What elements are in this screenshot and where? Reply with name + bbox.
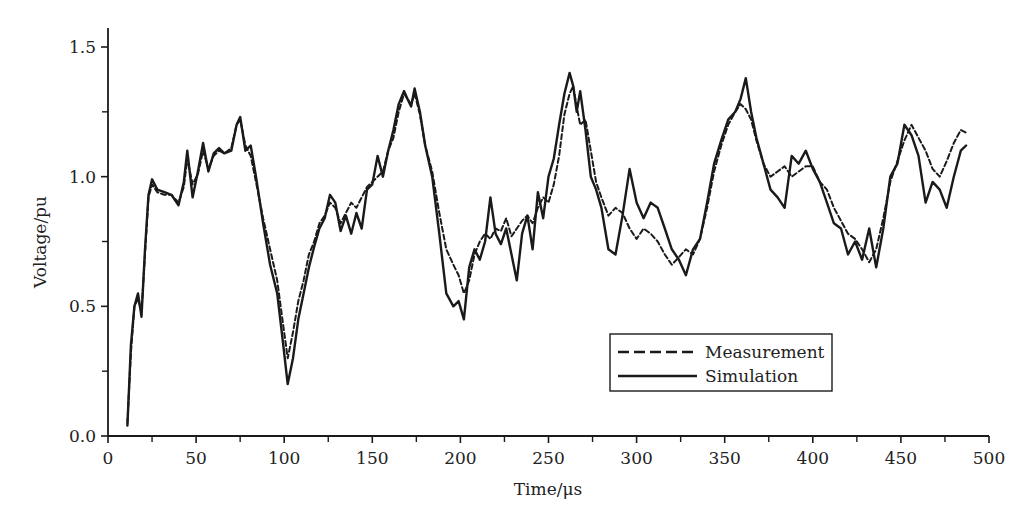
x-tick-label: 150 (356, 448, 388, 468)
legend: Measurement Simulation (610, 334, 832, 391)
x-tick-label: 100 (268, 448, 300, 468)
series-simulation-line (127, 73, 966, 426)
x-tick-label: 0 (103, 448, 114, 468)
series-layer (127, 73, 966, 426)
x-tick-label: 250 (532, 448, 564, 468)
legend-label-simulation: Simulation (705, 366, 798, 386)
x-tick-label: 50 (185, 448, 207, 468)
y-tick-label: 0.0 (69, 426, 96, 446)
x-tick-label: 350 (708, 448, 740, 468)
x-tick-label: 200 (444, 448, 476, 468)
voltage-time-chart: 050100150200250300350400450500 0.00.51.0… (0, 0, 1035, 523)
y-tick-label: 1.0 (69, 167, 96, 187)
x-tick-label: 300 (620, 448, 652, 468)
x-axis-label: Time/μs (514, 479, 582, 499)
x-tick-label: 500 (973, 448, 1005, 468)
y-tick-label: 0.5 (69, 296, 96, 316)
y-tick-label: 1.5 (69, 37, 96, 57)
series-measurement-line (127, 86, 966, 423)
y-axis-label: Voltage/pu (30, 196, 50, 289)
legend-label-measurement: Measurement (705, 342, 825, 362)
x-tick-label: 450 (885, 448, 917, 468)
x-tick-label: 400 (797, 448, 829, 468)
chart-canvas: 050100150200250300350400450500 0.00.51.0… (0, 0, 1035, 523)
y-axis-ticks: 0.00.51.01.5 (69, 37, 108, 446)
plot-area (127, 73, 966, 426)
x-axis-ticks: 050100150200250300350400450500 (103, 436, 1006, 468)
